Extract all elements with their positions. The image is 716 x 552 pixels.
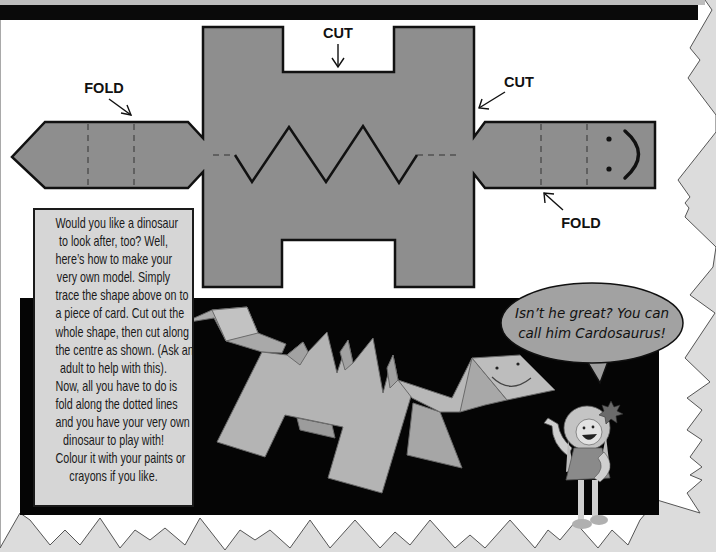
instructions-line: very own model. Simply	[55, 268, 171, 286]
cut-label-top: CUT	[323, 25, 353, 41]
instructions-line: Would you like a dinosaur	[55, 214, 171, 232]
cut-label-right: CUT	[504, 74, 534, 90]
instructions-box: Would you like a dinosaur to look after,…	[33, 208, 194, 507]
instructions-line: the centre as shown. (Ask an	[55, 341, 171, 359]
instructions-line: and you have your very own	[55, 413, 171, 431]
instructions-line: dinosaur to play with!	[55, 431, 171, 449]
instructions-line: to look after, too? Well,	[55, 232, 171, 250]
instructions-line: here’s how to make your	[55, 250, 171, 268]
header-bar	[0, 5, 698, 20]
instructions-line: Now, all you have to do is	[55, 377, 171, 395]
fold-label-left: FOLD	[84, 80, 123, 96]
instructions-line: a piece of card. Cut out the	[55, 304, 171, 322]
instructions-line: whole shape, then cut along	[55, 323, 171, 341]
instructions-line: fold along the dotted lines	[55, 395, 171, 413]
fold-label-bottom: FOLD	[561, 215, 600, 231]
instructions-line: trace the shape above on to	[55, 286, 171, 304]
header-strip	[0, 0, 705, 5]
speech-bubble-line-2: call him Cardosaurus!	[518, 325, 666, 341]
instructions-line: crayons if you like.	[55, 467, 171, 485]
speech-bubble-line-1: Isn’t he great? You can	[515, 305, 669, 321]
instructions-line: Colour it with your paints or	[55, 449, 171, 467]
instructions-line: adult to help with this).	[55, 359, 171, 377]
